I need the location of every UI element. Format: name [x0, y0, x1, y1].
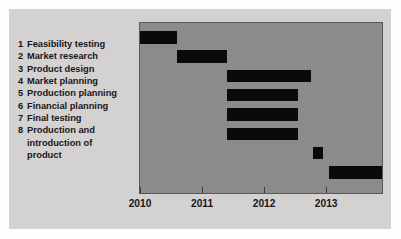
task-list-item: 4Market planning [18, 75, 138, 87]
task-list-item: 2Market research [18, 50, 138, 62]
task-list-item: 7Final testing [18, 112, 138, 124]
task-label-wrap: introduction of [18, 137, 138, 149]
gantt-bar [177, 50, 227, 63]
task-number: 5 [18, 87, 27, 99]
task-list-item-continuation: product [18, 149, 138, 161]
x-axis-tick-label: 2011 [191, 198, 213, 209]
task-list-item: 3Product design [18, 63, 138, 75]
gantt-bar [140, 31, 177, 44]
task-list-item: 5Production planning [18, 87, 138, 99]
gantt-plot-area [139, 22, 383, 194]
task-number: 4 [18, 75, 27, 87]
task-label: Financial planning [27, 100, 138, 112]
task-label: Product design [27, 63, 138, 75]
gantt-bar [227, 89, 298, 102]
task-list-item: 1Feasibility testing [18, 38, 138, 50]
gantt-bar [227, 108, 298, 121]
task-name-list: 1Feasibility testing2Market research3Pro… [18, 38, 138, 161]
task-number: 8 [18, 124, 27, 136]
task-list-item: 8Production and [18, 124, 138, 136]
gantt-bar [227, 128, 298, 141]
task-number: 7 [18, 112, 27, 124]
task-label-wrap: product [18, 149, 138, 161]
task-number: 1 [18, 38, 27, 50]
task-label: Feasibility testing [27, 38, 138, 50]
task-label: Production and [27, 124, 138, 136]
task-number: 2 [18, 50, 27, 62]
task-number: 6 [18, 100, 27, 112]
gantt-chart-figure: 1Feasibility testing2Market research3Pro… [0, 0, 401, 239]
x-axis-tick-label: 2013 [315, 198, 338, 209]
task-label: Market research [27, 50, 138, 62]
gantt-bar [329, 166, 382, 179]
x-axis-tick-label: 2010 [129, 198, 152, 209]
task-label: Market planning [27, 75, 138, 87]
x-axis-tick-label: 2012 [253, 198, 276, 209]
x-axis-tick [326, 187, 327, 193]
task-label: Final testing [27, 112, 138, 124]
task-number: 3 [18, 63, 27, 75]
gantt-bar [227, 70, 311, 83]
task-label: Production planning [27, 87, 138, 99]
gantt-bar [313, 147, 324, 160]
x-axis-tick [140, 187, 141, 193]
x-axis-tick [202, 187, 203, 193]
x-axis-tick [264, 187, 265, 193]
task-list-item-continuation: introduction of [18, 137, 138, 149]
x-axis-labels: 2010201120122013 [139, 198, 399, 214]
task-list-item: 6Financial planning [18, 100, 138, 112]
